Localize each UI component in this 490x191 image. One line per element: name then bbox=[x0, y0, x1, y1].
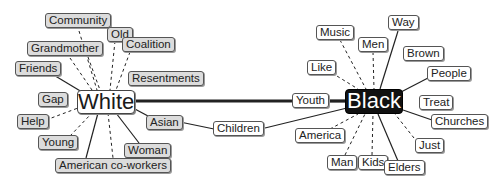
edge-black-children bbox=[265, 108, 347, 128]
term-man: Man bbox=[327, 155, 357, 170]
term-churches: Churches bbox=[431, 114, 488, 129]
hub-white: White bbox=[77, 90, 135, 114]
term-music: Music bbox=[316, 25, 354, 40]
edge-white-old bbox=[110, 41, 115, 90]
edge-white-woman bbox=[116, 113, 139, 143]
term-asian: Asian bbox=[146, 115, 183, 130]
hub-black: Black bbox=[345, 89, 403, 114]
term-young: Young bbox=[38, 135, 78, 150]
term-grandmother: Grandmother bbox=[27, 41, 103, 56]
term-way: Way bbox=[388, 15, 419, 30]
edge-black-america bbox=[330, 114, 358, 129]
term-children: Children bbox=[213, 121, 264, 136]
edge-black-men bbox=[373, 52, 374, 89]
term-american-coworkers: American co-workers bbox=[55, 158, 171, 173]
edge-black-elders bbox=[378, 114, 398, 161]
term-coalition: Coalition bbox=[122, 37, 175, 52]
term-men: Men bbox=[358, 37, 388, 52]
edge-black-man bbox=[345, 114, 365, 155]
term-brown: Brown bbox=[403, 46, 444, 61]
term-friends: Friends bbox=[15, 61, 61, 76]
word-association-diagram: White Black Community Old Grandmother Co… bbox=[0, 0, 490, 191]
edge-white-community bbox=[79, 31, 97, 90]
edge-white-grandmother-2 bbox=[88, 57, 100, 90]
edge-black-like bbox=[332, 73, 358, 89]
edge-white-grandmother bbox=[70, 58, 92, 90]
term-just: Just bbox=[415, 138, 444, 153]
term-elders: Elders bbox=[384, 160, 425, 175]
edge-white-asian bbox=[133, 108, 148, 116]
edge-black-kids bbox=[372, 114, 373, 155]
edge-asian-children bbox=[180, 122, 214, 129]
term-resentments: Resentments bbox=[128, 71, 204, 86]
edge-white-help bbox=[46, 108, 78, 120]
term-help: Help bbox=[17, 114, 49, 129]
edge-white-young bbox=[70, 113, 92, 136]
edge-white-american-coworkers bbox=[86, 113, 98, 158]
edge-black-people bbox=[401, 78, 428, 92]
term-america: America bbox=[295, 128, 345, 143]
term-like: Like bbox=[307, 60, 336, 75]
term-woman: Woman bbox=[124, 143, 171, 158]
edge-black-just bbox=[395, 114, 414, 138]
term-gap: Gap bbox=[38, 92, 68, 107]
edge-black-churches bbox=[403, 110, 432, 120]
term-treat: Treat bbox=[419, 95, 453, 110]
term-youth: Youth bbox=[292, 93, 329, 108]
term-people: People bbox=[427, 66, 471, 81]
term-community: Community bbox=[45, 13, 111, 28]
edge-white-american-coworkers-2 bbox=[108, 113, 113, 158]
